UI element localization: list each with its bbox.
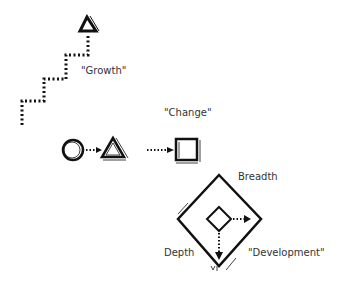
dotted-arrow-2 bbox=[147, 147, 174, 153]
circle-icon bbox=[63, 140, 83, 160]
growth-label: "Growth" bbox=[81, 65, 126, 76]
small-diamond-icon bbox=[207, 207, 231, 231]
growth-staircase bbox=[22, 35, 88, 125]
signature-mark bbox=[211, 266, 217, 271]
depth-label: Depth bbox=[164, 247, 194, 258]
breadth-label: Breadth bbox=[238, 171, 278, 182]
square-icon bbox=[176, 139, 200, 163]
dotted-arrow-1 bbox=[86, 147, 102, 153]
triangle-icon bbox=[102, 138, 128, 160]
diagram-drawing bbox=[0, 0, 346, 288]
change-label: "Change" bbox=[164, 107, 212, 118]
breadth-arrow bbox=[233, 215, 251, 223]
development-label: "Development" bbox=[248, 247, 325, 258]
depth-arrow bbox=[215, 233, 223, 260]
growth-triangle-icon bbox=[80, 16, 99, 31]
diagram-canvas: "Growth" "Change" Breadth Depth "Develop… bbox=[0, 0, 346, 288]
